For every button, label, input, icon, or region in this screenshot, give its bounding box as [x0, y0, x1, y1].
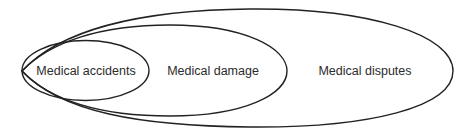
label-medical-disputes: Medical disputes [318, 65, 411, 78]
nested-sets-diagram: Medical accidents Medical damage Medical… [0, 0, 476, 133]
label-medical-damage: Medical damage [167, 65, 259, 78]
label-medical-accidents: Medical accidents [36, 65, 135, 78]
